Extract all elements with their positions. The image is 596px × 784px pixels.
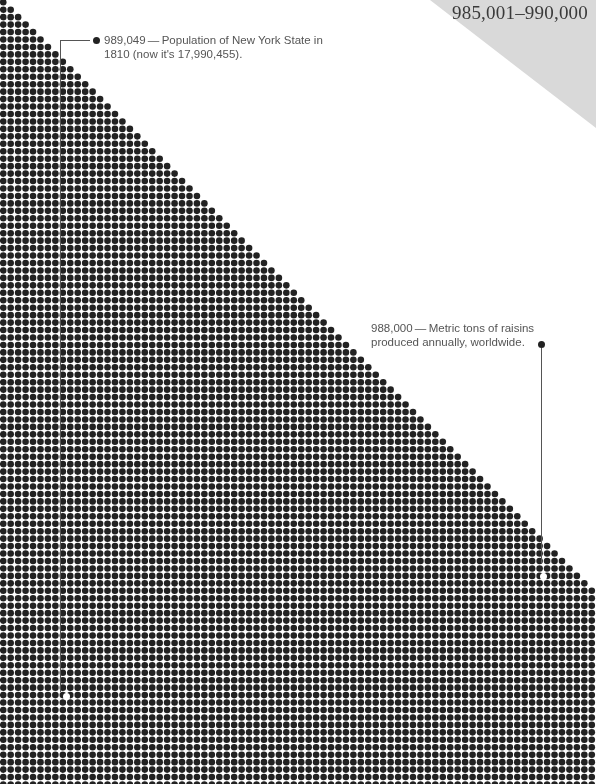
nys-annotation: 989,049 — Population of New York State i… [104,33,354,61]
nys-marker-dot [93,37,100,44]
raisins-annotation-line1: 988,000 — Metric tons of raisins [371,321,541,335]
nys-annotation-line2: 1810 (now it's 17,990,455). [104,47,354,61]
raisins-annotation: 988,000 — Metric tons of raisins produce… [371,321,541,349]
dot-matrix [0,0,596,784]
nys-annotation-line1: 989,049 — Population of New York State i… [104,33,354,47]
raisins-leader-vertical [541,348,542,563]
nys-leader-vertical [60,40,61,692]
raisins-annotation-line2: produced annually, worldwide. [371,335,541,349]
nys-leader-horizontal [60,40,90,41]
raisins-highlighted-dot [540,573,547,580]
range-label: 985,001–990,000 [452,2,588,24]
nys-highlighted-dot [63,693,70,700]
